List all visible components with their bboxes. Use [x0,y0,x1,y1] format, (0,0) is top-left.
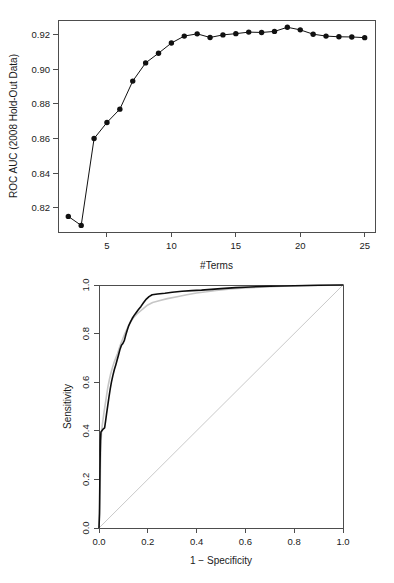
auc-data-point [117,106,122,111]
auc-data-point [259,30,264,35]
auc-data-point [169,40,174,45]
auc-data-point [310,31,315,36]
x-tick-label: 5 [104,240,109,251]
y-tick-label: 0.90 [32,64,51,75]
auc-data-point [298,27,303,32]
auc-vs-terms-figure: 0.820.840.860.880.900.92510152025#TermsR… [0,0,394,278]
y-tick-label: 0.2 [80,473,91,486]
y-tick-label: 0.92 [32,29,51,40]
x-tick-label: 20 [295,240,306,251]
x-tick-label: 0.4 [190,536,203,547]
y-tick-label: 0.8 [80,327,91,340]
y-tick-label: 1.0 [80,278,91,291]
auc-data-point [336,34,341,39]
auc-data-point [272,29,277,34]
y-tick-label: 0.0 [80,521,91,534]
auc-data-point [323,33,328,38]
auc-data-point [143,60,148,65]
x-tick-label: 25 [359,240,370,251]
roc-curves-figure: 0.00.20.40.60.81.00.00.20.40.60.81.01 − … [0,278,394,583]
x-axis-title: 1 − Specificity [190,555,252,566]
y-tick-label: 0.82 [32,202,51,213]
plot-frame [58,20,375,232]
chance-diagonal-line [99,285,343,528]
auc-data-point [207,35,212,40]
auc-data-point [233,31,238,36]
y-axis-title: ROC AUC (2008 Hold-Out Data) [8,54,19,198]
auc-data-point [362,35,367,40]
x-tick-label: 0.0 [92,536,105,547]
x-tick-label: 0.6 [239,536,252,547]
auc-data-point [349,34,354,39]
auc-data-point [182,33,187,38]
auc-data-point [285,25,290,30]
auc-data-point [66,214,71,219]
y-tick-label: 0.88 [32,98,51,109]
x-tick-label: 10 [166,240,177,251]
y-tick-label: 0.86 [32,133,51,144]
y-tick-label: 0.84 [32,168,51,179]
x-tick-label: 15 [231,240,242,251]
auc-data-point [130,78,135,83]
auc-data-point [246,29,251,34]
auc-data-point [220,32,225,37]
y-tick-label: 0.6 [80,376,91,389]
auc-series-line [68,27,364,225]
auc-vs-terms-plot: 0.820.840.860.880.900.92510152025#TermsR… [0,0,394,278]
auc-data-point [79,223,84,228]
auc-data-point [104,120,109,125]
x-axis-title: #Terms [200,260,233,271]
x-tick-label: 1.0 [336,536,349,547]
auc-data-point [194,31,199,36]
y-tick-label: 0.4 [80,424,91,437]
x-tick-label: 0.2 [141,536,154,547]
roc-curves-plot: 0.00.20.40.60.81.00.00.20.40.60.81.01 − … [0,278,394,583]
y-axis-title: Sensitivity [62,384,73,429]
auc-data-point [91,136,96,141]
auc-data-point [156,51,161,56]
x-tick-label: 0.8 [288,536,301,547]
